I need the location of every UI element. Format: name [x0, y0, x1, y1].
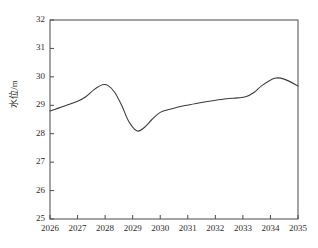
y-axis-tick-label: 32 [23, 15, 45, 24]
x-axis-tick-label: 2035 [281, 224, 315, 233]
y-axis-tick-label: 31 [23, 43, 45, 52]
plot-canvas [0, 0, 318, 248]
y-axis-tick-label: 29 [23, 100, 45, 109]
line-chart: 水位/m 2526272829303132 202620272028202920… [0, 0, 318, 248]
y-axis-tick-label: 27 [23, 157, 45, 166]
y-axis-tick-label: 25 [23, 214, 45, 223]
y-axis-tick-label: 26 [23, 186, 45, 195]
y-axis-tick-label: 30 [23, 72, 45, 81]
y-axis-tick-label: 28 [23, 129, 45, 138]
plot-background [50, 20, 298, 219]
